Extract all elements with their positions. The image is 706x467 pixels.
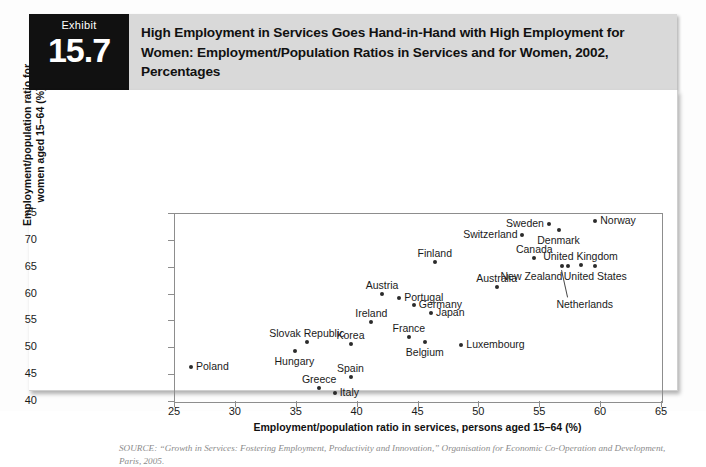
data-point-label: Sweden xyxy=(506,217,544,229)
y-tick-label: 75 xyxy=(9,206,37,218)
x-tick-mark xyxy=(296,401,297,407)
exhibit-header: Exhibit 15.7 High Employment in Services… xyxy=(29,14,677,90)
data-point-label: Hungary xyxy=(275,355,315,367)
data-point-label: Spain xyxy=(337,362,364,374)
y-tick-mark xyxy=(168,213,174,214)
data-point xyxy=(380,292,384,296)
x-tick-mark xyxy=(478,401,479,407)
data-point-label: Norway xyxy=(600,214,636,226)
x-tick-mark xyxy=(174,401,175,407)
data-point xyxy=(557,228,561,232)
chart-card: Employment/population ratio for women ag… xyxy=(29,90,678,391)
data-point-label: Italy xyxy=(340,386,359,398)
y-tick-label: 65 xyxy=(9,260,37,272)
y-tick-mark xyxy=(168,240,174,241)
data-point-label: Korea xyxy=(337,329,365,341)
data-point-label: Switzerland xyxy=(463,228,517,240)
data-point-label: United Kingdom xyxy=(543,250,618,262)
data-point xyxy=(349,375,353,379)
y-tick-mark xyxy=(168,294,174,295)
data-point-label: United States xyxy=(564,270,627,282)
data-point xyxy=(293,349,297,353)
data-point-label: France xyxy=(392,322,425,334)
data-point xyxy=(369,320,373,324)
x-tick-mark xyxy=(539,401,540,407)
x-tick-mark xyxy=(235,401,236,407)
data-point xyxy=(579,263,583,267)
data-point-label: Japan xyxy=(436,306,465,318)
data-point-label: Poland xyxy=(196,360,229,372)
data-point-label: Slovak Republic xyxy=(269,327,344,339)
data-point-label: Luxembourg xyxy=(466,338,524,350)
x-axis-label: Employment/population ratio in services,… xyxy=(174,421,661,433)
x-tick-mark xyxy=(357,401,358,407)
source-note: SOURCE: “Growth in Services: Fostering E… xyxy=(119,442,679,467)
exhibit-title: High Employment in Services Goes Hand-in… xyxy=(141,23,661,82)
data-point-label: Austria xyxy=(366,279,399,291)
y-tick-mark xyxy=(168,347,174,348)
x-tick-mark xyxy=(600,401,601,407)
data-point xyxy=(349,342,353,346)
data-point xyxy=(433,260,437,264)
y-tick-label: 40 xyxy=(9,394,37,406)
x-tick-mark xyxy=(418,401,419,407)
data-point-label: Denmark xyxy=(537,234,580,246)
data-point-label: Netherlands xyxy=(556,298,613,310)
y-tick-label: 50 xyxy=(9,340,37,352)
y-tick-label: 45 xyxy=(9,367,37,379)
y-tick-label: 55 xyxy=(9,313,37,325)
data-point xyxy=(495,285,499,289)
data-point-label: New Zealand xyxy=(500,270,562,282)
data-point-label: Belgium xyxy=(406,346,444,358)
data-point-label: Greece xyxy=(302,373,336,385)
y-tick-mark xyxy=(168,320,174,321)
data-point-label: Finland xyxy=(418,247,452,259)
data-point xyxy=(459,343,463,347)
data-point xyxy=(317,386,321,390)
y-tick-mark xyxy=(168,267,174,268)
y-tick-mark xyxy=(168,374,174,375)
x-tick-mark xyxy=(661,401,662,407)
y-tick-label: 70 xyxy=(9,233,37,245)
data-point-label: Ireland xyxy=(355,307,387,319)
y-tick-label: 60 xyxy=(9,287,37,299)
